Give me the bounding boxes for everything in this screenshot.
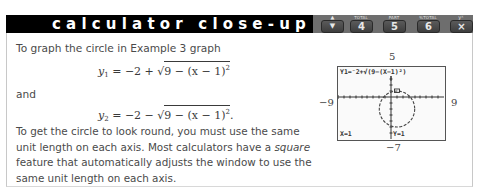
eq2-rhs: = −2 − √ xyxy=(109,109,165,122)
section-header: calculator close-up ▼ ▲ TOTAL 4 PART 5 %… xyxy=(6,15,473,33)
window-xmax-label: 9 xyxy=(451,97,457,108)
arrow-key: ▼ xyxy=(321,20,344,33)
calculator-screen: Y1=⁻2+√(9−(X−1)²) X=1 Y=1 xyxy=(337,66,446,141)
screen-cursor-y: Y=1 xyxy=(393,130,405,138)
eq1-radicand: 9 − (x − 1)2 xyxy=(164,61,230,78)
equation-y2: y2 = −2 − √9 − (x − 1)2. xyxy=(98,105,234,123)
arrow-down-icon: ▼ xyxy=(330,22,335,30)
window-ymax-label: 5 xyxy=(389,51,395,62)
explanation-paragraph: To get the circle to look round, you mus… xyxy=(16,124,316,186)
window-xmin-label: −9 xyxy=(319,97,334,108)
arrow-up-icon: ▲ xyxy=(321,15,344,20)
multiply-icon: × xyxy=(457,21,465,32)
para-text-2: feature that automatically adjusts the w… xyxy=(16,156,312,184)
graph-plot xyxy=(338,67,444,139)
screen-function-text: Y1=⁻2+√(9−(X−1)²) xyxy=(340,68,407,76)
eq1-sup: 2 xyxy=(226,64,230,72)
window-ymin-label: −7 xyxy=(386,142,401,153)
key-4: 4 xyxy=(350,20,373,33)
key-6: 6 xyxy=(417,20,440,33)
equation-y1: y1 = −2 + √9 − (x − 1)2 xyxy=(98,61,230,79)
eq2-period: . xyxy=(230,109,234,122)
conjunction-text: and xyxy=(16,88,36,100)
eq1-radicand-text: 9 − (x − 1) xyxy=(164,65,225,78)
eq2-radicand: 9 − (x − 1)2 xyxy=(164,105,230,122)
multiply-key: × xyxy=(450,20,473,33)
key-5: 5 xyxy=(383,20,406,33)
intro-text: To graph the circle in Example 3 graph xyxy=(16,42,221,54)
para-emphasis: square xyxy=(274,141,310,153)
screen-cursor-x: X=1 xyxy=(340,130,352,138)
eq2-radicand-text: 9 − (x − 1) xyxy=(164,109,225,122)
eq1-rhs: = −2 + √ xyxy=(109,65,165,78)
section-title: calculator close-up xyxy=(52,15,311,33)
calculator-keys-strip: ▼ ▲ TOTAL 4 PART 5 %TOTAL 6 yˣ × xyxy=(313,15,473,33)
para-text-1: To get the circle to look round, you mus… xyxy=(16,125,300,153)
